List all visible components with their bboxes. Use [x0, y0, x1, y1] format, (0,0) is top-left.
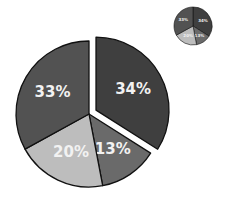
- pie-chart: 34%13%20%33% 34%13%20%33%: [0, 0, 230, 197]
- main-pie: 34%13%20%33%: [16, 37, 169, 187]
- slice-label: 33%: [35, 83, 71, 101]
- slice-label: 34%: [198, 18, 208, 23]
- slice-label: 13%: [95, 140, 131, 158]
- slice-label: 34%: [115, 80, 151, 98]
- thumbnail-pie: 34%13%20%33%: [174, 7, 212, 45]
- slice-label: 20%: [183, 33, 193, 38]
- slice-label: 20%: [53, 143, 89, 161]
- slice-label: 33%: [178, 17, 188, 22]
- slice-label: 13%: [195, 33, 205, 38]
